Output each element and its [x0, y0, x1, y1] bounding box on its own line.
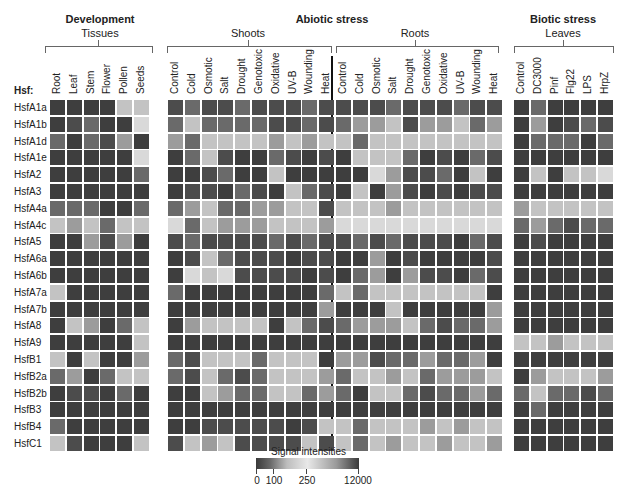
heatmap-cell [581, 419, 596, 434]
heatmap-cell [454, 318, 469, 333]
heatmap-cell [581, 234, 596, 249]
heatmap-cell [470, 218, 485, 233]
heatmap-cell [100, 134, 115, 149]
heatmap-cell [514, 117, 529, 132]
heatmap-cell [420, 201, 435, 216]
heatmap-cell [134, 184, 149, 199]
heatmap-cell [581, 201, 596, 216]
heatmap-cell [514, 335, 529, 350]
heatmap-cell [269, 318, 284, 333]
heatmap-cell [100, 402, 115, 417]
heatmap-cell [84, 268, 99, 283]
heatmap-cell [84, 419, 99, 434]
heatmap-cell [336, 150, 351, 165]
heatmap-cell [50, 386, 65, 401]
heatmap-cell [50, 352, 65, 367]
heatmap-cell [353, 352, 368, 367]
column-label: Root [52, 73, 62, 94]
heatmap-cell [564, 369, 579, 384]
heatmap-cell [581, 251, 596, 266]
heatmap-cell [252, 318, 267, 333]
heatmap-cell [598, 234, 613, 249]
heatmap-cell [598, 369, 613, 384]
heatmap-cell [531, 234, 546, 249]
heatmap-cell [117, 386, 132, 401]
heatmap-cell [202, 402, 217, 417]
heatmap-cell [84, 167, 99, 182]
heatmap-cell [185, 335, 200, 350]
heatmap-cell [50, 117, 65, 132]
heatmap-cell [202, 318, 217, 333]
heatmap-cell [514, 251, 529, 266]
heatmap-cell [235, 117, 250, 132]
row-label: HsfA5 [14, 233, 41, 250]
heatmap-cell [487, 335, 502, 350]
heatmap-cell [564, 150, 579, 165]
heatmap-cell [336, 386, 351, 401]
heatmap-cell [202, 268, 217, 283]
heatmap-cell [286, 352, 301, 367]
heatmap-cell [336, 335, 351, 350]
heatmap-cell [531, 167, 546, 182]
row-label: HsfC1 [14, 435, 42, 452]
heatmap-cell [319, 184, 334, 199]
heatmap-cell [218, 100, 233, 115]
column-label: DC3000 [533, 57, 543, 94]
heatmap-cell [286, 184, 301, 199]
heatmap-cell [84, 302, 99, 317]
heatmap-cell [598, 419, 613, 434]
heatmap-cell [269, 167, 284, 182]
heatmap-cell [67, 352, 82, 367]
heatmap-cell [185, 318, 200, 333]
heatmap-cell [134, 402, 149, 417]
heatmap-cell [403, 100, 418, 115]
heatmap-cell [252, 100, 267, 115]
heatmap-cell [386, 201, 401, 216]
heatmap-cell [269, 201, 284, 216]
row-label: HsfA1e [14, 149, 47, 166]
heatmap-cell [437, 117, 452, 132]
heatmap-cell [564, 218, 579, 233]
heatmap-cell [286, 134, 301, 149]
heatmap-cell [67, 201, 82, 216]
heatmap-cell [531, 251, 546, 266]
row-label: HsfB2b [14, 385, 47, 402]
heatmap-cell [134, 150, 149, 165]
heatmap-cell [598, 302, 613, 317]
heatmap-cell [403, 369, 418, 384]
heatmap-cell [117, 184, 132, 199]
subgroup-title-leaves: Leaves [545, 27, 580, 39]
heatmap-cell [370, 335, 385, 350]
heatmap-cell [235, 268, 250, 283]
heatmap-cell [84, 402, 99, 417]
heatmap-cell [420, 285, 435, 300]
bracket-tissues [45, 46, 153, 53]
legend-tickline-12000 [358, 469, 359, 474]
heatmap-cell [100, 167, 115, 182]
heatmap-cell [531, 218, 546, 233]
heatmap-cell [548, 150, 563, 165]
row-label: HsfA4a [14, 200, 47, 217]
heatmap-cell [218, 419, 233, 434]
heatmap-cell [454, 302, 469, 317]
heatmap-cell [319, 100, 334, 115]
heatmap-cell [134, 218, 149, 233]
heatmap-cell [437, 268, 452, 283]
row-header-hsf: Hsf: [14, 85, 33, 96]
heatmap-cell [67, 100, 82, 115]
heatmap-cell [117, 268, 132, 283]
heatmap-cell [202, 419, 217, 434]
heatmap-cell [470, 318, 485, 333]
heatmap-cell [403, 419, 418, 434]
column-label: Seeds [136, 66, 146, 94]
heatmap-cell [134, 436, 149, 451]
heatmap-cell [353, 285, 368, 300]
heatmap-cell [185, 302, 200, 317]
heatmap-cell [319, 201, 334, 216]
heatmap-cell [252, 369, 267, 384]
legend-tick-12000: 12000 [344, 475, 372, 486]
heatmap-cell [531, 117, 546, 132]
heatmap-cell [370, 302, 385, 317]
heatmap-cell [598, 352, 613, 367]
heatmap-cell [67, 369, 82, 384]
